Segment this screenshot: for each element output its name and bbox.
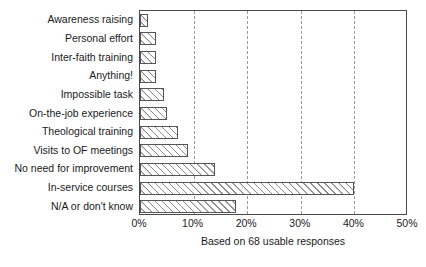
bar-row	[140, 141, 406, 160]
category-label: On-the-job experience	[29, 107, 133, 119]
x-tick-label: 20%	[236, 216, 257, 230]
bar	[140, 32, 156, 45]
bar-chart-figure: Awareness raisingPersonal effortInter-fa…	[0, 0, 426, 267]
bar	[140, 51, 156, 64]
bar-row	[140, 67, 406, 86]
bar-row	[140, 48, 406, 67]
category-label: Impossible task	[61, 88, 133, 100]
x-axis-tick-labels: 0%10%20%30%40%50%	[139, 216, 407, 232]
bar	[140, 70, 156, 83]
x-tick-label: 50%	[396, 216, 417, 230]
bar-row	[140, 123, 406, 142]
category-axis-labels: Awareness raisingPersonal effortInter-fa…	[0, 10, 137, 215]
bar	[140, 14, 148, 27]
bar-row	[140, 160, 406, 179]
x-tick-label: 0%	[131, 216, 146, 230]
category-label: Anything!	[89, 69, 133, 81]
bar-row	[140, 197, 406, 216]
category-label: In-service courses	[48, 181, 133, 193]
category-label: Visits to OF meetings	[33, 144, 133, 156]
category-label: Personal effort	[65, 32, 133, 44]
bar	[140, 126, 178, 139]
bar	[140, 182, 354, 195]
chart-caption: Based on 68 usable responses	[139, 234, 407, 248]
bar	[140, 144, 188, 157]
bar-row	[140, 104, 406, 123]
bar-row	[140, 86, 406, 105]
category-label: Awareness raising	[47, 13, 133, 25]
bar-row	[140, 30, 406, 49]
plot-area	[139, 10, 407, 215]
category-label: N/A or don't know	[51, 200, 133, 212]
bar-row	[140, 179, 406, 198]
x-tick-label: 30%	[289, 216, 310, 230]
x-tick-label: 40%	[343, 216, 364, 230]
category-label: Inter-faith training	[51, 51, 133, 63]
bar	[140, 200, 236, 213]
x-tick-label: 10%	[182, 216, 203, 230]
bar-row	[140, 11, 406, 30]
bar	[140, 107, 167, 120]
bar	[140, 163, 215, 176]
bar	[140, 88, 164, 101]
bar-series	[140, 11, 406, 214]
category-label: No need for improvement	[15, 162, 133, 174]
category-label: Theological training	[42, 125, 133, 137]
